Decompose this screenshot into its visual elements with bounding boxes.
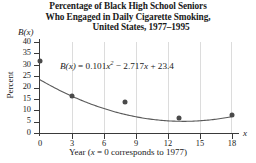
title-line-1: Percentage of Black High School Seniors [0, 1, 256, 12]
y-axis-function-label: B(x) [18, 27, 34, 37]
y-axis-tick [34, 133, 39, 134]
y-axis-tick [34, 53, 39, 54]
y-axis-tick [34, 122, 39, 123]
y-axis-tick [34, 42, 39, 43]
title-line-2: Who Engaged in Daily Cigarette Smoking, [0, 12, 256, 23]
y-axis-tick [34, 110, 39, 111]
data-point [176, 115, 181, 120]
title-line-3: United States, 1977–1995 [0, 22, 256, 33]
y-axis-tick-label: 5 [5, 117, 31, 125]
regression-curve [40, 42, 232, 133]
x-caption-suffix: = 0 corresponds to 1977) [95, 147, 187, 157]
x-axis-variable-label: x [243, 128, 247, 138]
equation-equals: = [76, 61, 86, 71]
plot-area [40, 42, 232, 133]
equation-lhs: B(x) [60, 61, 76, 71]
equation-coef-b: 2.717 [123, 61, 144, 71]
y-axis-function-text: B(x) [18, 27, 34, 37]
equation-coef-c: 23.4 [158, 61, 174, 71]
y-axis-tick-label: 20 [5, 83, 31, 91]
equation-annotation: B(x) = 0.101x2 − 2.717x + 23.4 [60, 59, 174, 71]
y-axis-tick-label: 15 [5, 95, 31, 103]
y-axis-tick-label: 30 [5, 61, 31, 69]
chart-title: Percentage of Black High School Seniors … [0, 1, 256, 33]
data-point [38, 59, 43, 64]
equation-coef-a: 0.101 [86, 61, 107, 71]
equation-sign-c: + [148, 61, 158, 71]
y-axis-tick [34, 99, 39, 100]
y-axis-tick [34, 76, 39, 77]
y-axis-tick-label: 35 [5, 49, 31, 57]
data-point [70, 94, 75, 99]
chart-figure: Percentage of Black High School Seniors … [0, 0, 256, 163]
y-axis-tick-label: 40 [5, 38, 31, 46]
data-point [230, 112, 235, 117]
equation-sign-b: − [114, 61, 124, 71]
data-point [123, 100, 128, 105]
y-axis-tick [34, 65, 39, 66]
y-axis-tick-label: 10 [5, 106, 31, 114]
y-axis-tick-label: 25 [5, 72, 31, 80]
y-axis-tick [34, 88, 39, 89]
x-caption-prefix: Year ( [69, 147, 91, 157]
y-axis-tick-label: 0 [5, 129, 31, 137]
x-axis-caption: Year (x = 0 corresponds to 1977) [0, 147, 256, 157]
